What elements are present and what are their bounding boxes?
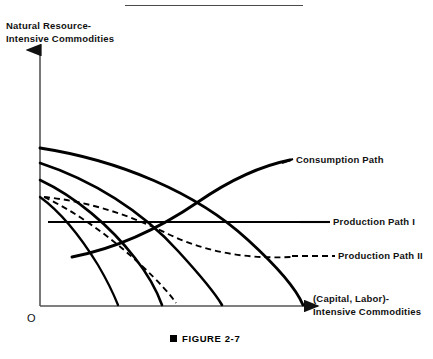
origin-label: O bbox=[27, 312, 36, 325]
x-axis-label-line-2: Intensive Commodities bbox=[313, 306, 421, 319]
y-axis-label-line-2: Intensive Commodities bbox=[6, 33, 114, 46]
transformation-curve-3 bbox=[40, 163, 222, 305]
caption-bullet-icon bbox=[170, 335, 177, 342]
x-axis-label: (Capital, Labor)- Intensive Commodities bbox=[313, 293, 421, 318]
figure-caption-text: FIGURE 2-7 bbox=[182, 333, 240, 344]
figure-caption: FIGURE 2-7 bbox=[170, 333, 240, 344]
transformation-curve-4 bbox=[40, 148, 303, 305]
figure-container: Natural Resource- Intensive Commodities … bbox=[0, 0, 433, 359]
legend-label-production-path-1: Production Path I bbox=[333, 216, 415, 229]
y-axis-label-line-1: Natural Resource- bbox=[6, 20, 114, 33]
transformation-curve-1 bbox=[40, 197, 118, 305]
y-axis-label: Natural Resource- Intensive Commodities bbox=[6, 20, 114, 45]
legend-label-consumption-path: Consumption Path bbox=[296, 154, 384, 167]
x-axis-label-line-1: (Capital, Labor)- bbox=[313, 293, 421, 306]
legend-label-production-path-2: Production Path II bbox=[338, 250, 423, 263]
